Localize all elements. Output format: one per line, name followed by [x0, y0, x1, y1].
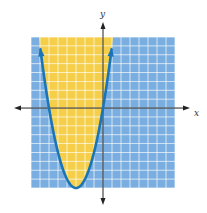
x-axis-label: x	[194, 108, 199, 118]
parabola-inequality-graph: x y	[0, 0, 207, 213]
y-axis-label: y	[99, 9, 106, 19]
